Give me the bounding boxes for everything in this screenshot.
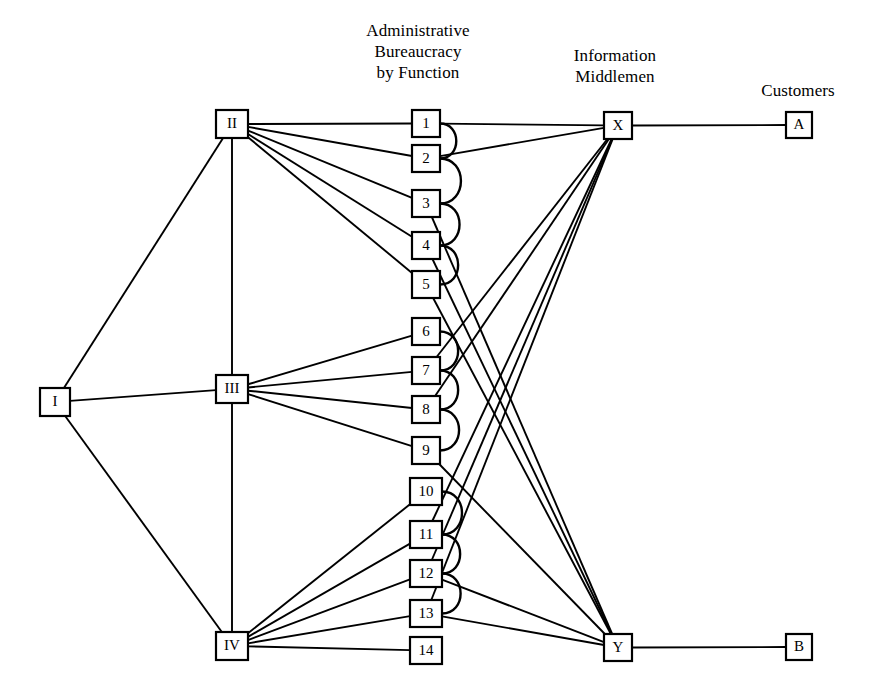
- node-label-A: A: [794, 116, 805, 132]
- node-3[interactable]: 3: [412, 190, 440, 217]
- node-label-II: II: [227, 115, 237, 131]
- node-label-IV: IV: [224, 637, 240, 653]
- edge-12-to-Y: [442, 580, 604, 642]
- edge-III-to-9: [248, 394, 412, 446]
- node-label-4: 4: [422, 237, 430, 253]
- node-2[interactable]: 2: [412, 145, 440, 172]
- node-label-13: 13: [419, 605, 434, 621]
- network-graph-canvas: IIIIIIIV1234567891011121314XYAB: [0, 0, 869, 689]
- node-label-Y: Y: [613, 639, 624, 655]
- node-8[interactable]: 8: [412, 396, 440, 423]
- arc-3-to-4: [440, 204, 460, 246]
- node-label-14: 14: [419, 642, 435, 658]
- edge-IV-to-11: [248, 544, 410, 637]
- node-7[interactable]: 7: [412, 357, 440, 384]
- edge-IV-to-13: [248, 616, 410, 643]
- node-label-12: 12: [419, 565, 434, 581]
- node-label-I: I: [53, 393, 58, 409]
- node-label-2: 2: [422, 150, 430, 166]
- arcs-layer: [440, 124, 462, 614]
- node-III[interactable]: III: [216, 375, 248, 403]
- edge-1-to-X: [440, 124, 604, 126]
- node-label-7: 7: [422, 362, 430, 378]
- node-X[interactable]: X: [604, 112, 632, 139]
- edge-IV-to-10: [248, 504, 410, 633]
- node-label-X: X: [613, 117, 624, 133]
- node-10[interactable]: 10: [410, 478, 442, 505]
- node-label-11: 11: [419, 526, 433, 542]
- node-label-3: 3: [422, 195, 430, 211]
- arc-2-to-3: [440, 159, 461, 204]
- node-9[interactable]: 9: [412, 437, 440, 464]
- node-label-6: 6: [422, 323, 430, 339]
- edge-I-to-IV: [65, 416, 222, 632]
- node-B[interactable]: B: [786, 634, 812, 660]
- network-diagram: Administrative Bureaucracy by Function I…: [0, 0, 869, 689]
- edge-I-to-II: [64, 138, 223, 388]
- node-13[interactable]: 13: [410, 600, 442, 627]
- node-label-9: 9: [422, 442, 430, 458]
- node-4[interactable]: 4: [412, 232, 440, 259]
- arc-8-to-9: [440, 410, 459, 451]
- edge-III-to-8: [248, 391, 412, 408]
- node-I[interactable]: I: [40, 388, 70, 416]
- nodes-layer: IIIIIIIV1234567891011121314XYAB: [40, 110, 812, 664]
- edge-11-to-X: [432, 139, 611, 521]
- node-label-10: 10: [419, 483, 434, 499]
- node-label-1: 1: [422, 115, 430, 131]
- node-label-8: 8: [422, 401, 430, 417]
- edge-II-to-5: [248, 137, 412, 273]
- node-5[interactable]: 5: [412, 271, 440, 298]
- node-14[interactable]: 14: [410, 637, 442, 664]
- edge-III-to-6: [248, 336, 412, 385]
- node-label-III: III: [225, 380, 240, 396]
- edge-2-to-X: [440, 128, 604, 156]
- arc-12-to-13: [442, 574, 461, 614]
- edge-I-to-III: [70, 390, 216, 401]
- edge-13-to-Y: [442, 616, 604, 645]
- edge-9-to-Y: [439, 464, 605, 634]
- node-label-5: 5: [422, 276, 430, 292]
- node-12[interactable]: 12: [410, 560, 442, 587]
- node-label-B: B: [794, 638, 804, 654]
- node-A[interactable]: A: [786, 112, 812, 138]
- node-6[interactable]: 6: [412, 318, 440, 345]
- node-11[interactable]: 11: [410, 521, 442, 548]
- edge-IV-to-12: [248, 579, 410, 640]
- edge-13-to-X: [431, 139, 612, 600]
- edge-4-to-Y: [432, 259, 611, 634]
- edge-IV-to-14: [248, 646, 410, 650]
- node-1[interactable]: 1: [412, 110, 440, 137]
- node-II[interactable]: II: [216, 110, 248, 138]
- node-IV[interactable]: IV: [216, 632, 248, 660]
- edge-III-to-7: [248, 372, 412, 388]
- edge-II-to-4: [248, 134, 412, 237]
- node-Y[interactable]: Y: [604, 634, 632, 661]
- edge-7-to-X: [437, 139, 608, 357]
